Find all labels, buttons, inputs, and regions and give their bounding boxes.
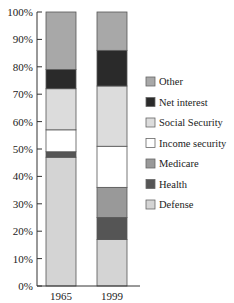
y-tick-label: 70% xyxy=(13,88,33,100)
y-axis: 0%10%20%30%40%50%60%70%80%90%100% xyxy=(7,6,42,292)
y-tick-label: 80% xyxy=(13,61,33,73)
legend: OtherNet interestSocial SecurityIncome s… xyxy=(146,76,227,210)
bar-segment-other xyxy=(46,12,76,70)
bar-segment-health xyxy=(97,218,127,240)
bars xyxy=(46,12,127,286)
bar-segment-social-security xyxy=(97,86,127,146)
bar-segment-defense xyxy=(97,239,127,286)
legend-label: Medicare xyxy=(159,158,199,169)
bar-segment-net-interest xyxy=(97,50,127,86)
bar-segment-other xyxy=(97,12,127,50)
legend-swatch xyxy=(146,180,155,189)
legend-label: Social Security xyxy=(159,117,224,128)
bar-segment-health xyxy=(46,152,76,157)
y-tick-label: 60% xyxy=(13,116,33,128)
x-tick-label: 1965 xyxy=(50,290,73,302)
bar-segment-defense xyxy=(46,157,76,286)
legend-swatch xyxy=(146,118,155,127)
legend-swatch xyxy=(146,139,155,148)
x-axis: 19651999 xyxy=(37,286,140,302)
y-tick-label: 50% xyxy=(13,143,33,155)
legend-label: Health xyxy=(159,179,188,190)
legend-label: Defense xyxy=(159,199,194,210)
legend-swatch xyxy=(146,200,155,209)
legend-swatch xyxy=(146,77,155,86)
y-tick-label: 40% xyxy=(13,170,33,182)
bar-segment-medicare xyxy=(97,187,127,217)
legend-label: Net interest xyxy=(159,97,208,108)
bar-segment-net-interest xyxy=(46,70,76,89)
legend-label: Income security xyxy=(159,138,227,149)
stacked-bar-chart: 0%10%20%30%40%50%60%70%80%90%100% 196519… xyxy=(0,0,234,303)
y-tick-label: 10% xyxy=(13,253,33,265)
y-tick-label: 30% xyxy=(13,198,33,210)
bar-segment-social-security xyxy=(46,89,76,130)
bar-segment-income-security xyxy=(46,130,76,152)
legend-swatch xyxy=(146,98,155,107)
bar-segment-income-security xyxy=(97,146,127,187)
y-tick-label: 100% xyxy=(7,6,33,18)
y-tick-label: 0% xyxy=(18,280,33,292)
y-tick-label: 90% xyxy=(13,33,33,45)
legend-swatch xyxy=(146,159,155,168)
y-tick-label: 20% xyxy=(13,225,33,237)
x-tick-label: 1999 xyxy=(101,290,124,302)
legend-label: Other xyxy=(159,76,183,87)
